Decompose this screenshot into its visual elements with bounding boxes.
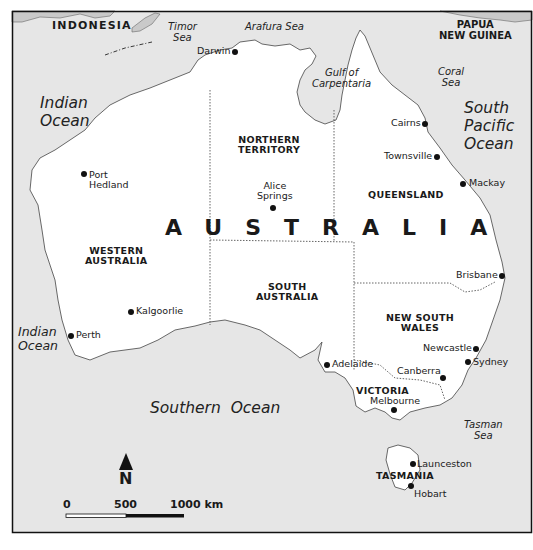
- tasman-line2: Sea: [464, 431, 503, 442]
- label-southern-ocean: Southern Ocean: [150, 400, 280, 418]
- city-label-sydney: Sydney: [473, 357, 508, 367]
- city-label-alice-springs: Alice Springs: [257, 181, 293, 201]
- timor-line1: Timor: [168, 22, 197, 33]
- carpentaria-line1: Gulf of: [312, 68, 371, 79]
- city-label-perth: Perth: [76, 330, 101, 340]
- label-south-pacific-ocean: South Pacific Ocean: [464, 100, 514, 153]
- city-dot-sydney: [465, 359, 471, 365]
- city-dot-canberra: [440, 375, 446, 381]
- city-label-hobart: Hobart: [414, 489, 446, 499]
- label-indian-ocean-south: Indian Ocean: [18, 325, 58, 354]
- coral-line2: Sea: [438, 78, 464, 89]
- label-new-south-wales: NEW SOUTH WALES: [386, 313, 454, 333]
- coral-line1: Coral: [438, 67, 464, 78]
- city-dot-townsville: [434, 154, 440, 160]
- sp-line2: Pacific: [464, 118, 514, 136]
- nt-line2: TERRITORY: [238, 145, 300, 155]
- city-dot-alice-springs: [270, 205, 276, 211]
- indian-s-line1: Indian: [18, 325, 58, 339]
- indian-s-line2: Ocean: [18, 339, 58, 353]
- sp-line1: South: [464, 100, 514, 118]
- city-label-mackay: Mackay: [469, 178, 505, 188]
- city-label-brisbane: Brisbane: [456, 270, 498, 280]
- scale-bar-white: [66, 514, 126, 518]
- sa-line2: AUSTRALIA: [256, 292, 318, 302]
- city-label-melbourne: Melbourne: [370, 396, 420, 406]
- scale-bar-black: [126, 514, 184, 518]
- label-indonesia: INDONESIA: [52, 20, 132, 32]
- nsw-line2: WALES: [386, 323, 454, 333]
- city-dot-kalgoorlie: [128, 309, 134, 315]
- city-dot-newcastle: [473, 346, 479, 352]
- city-dot-port-hedland: [81, 171, 87, 177]
- city-label-newcastle: Newcastle: [423, 343, 472, 353]
- city-label-port-hedland: Port Hedland: [89, 170, 129, 190]
- city-label-cairns: Cairns: [391, 118, 421, 128]
- city-dot-melbourne: [391, 407, 397, 413]
- label-queensland: QUEENSLAND: [368, 190, 444, 200]
- label-png-line1: PAPUA: [439, 20, 512, 31]
- city-label-canberra: Canberra: [397, 366, 441, 376]
- city-dot-launceston: [410, 461, 416, 467]
- label-western-australia: WESTERN AUSTRALIA: [85, 246, 147, 266]
- carpentaria-line2: Carpentaria: [312, 79, 371, 90]
- city-label-launceston: Launceston: [417, 459, 472, 469]
- city-dot-perth: [68, 333, 74, 339]
- timor-line2: Sea: [168, 33, 197, 44]
- label-tasmania: TASMANIA: [376, 471, 434, 481]
- label-png: PAPUA NEW GUINEA: [439, 20, 512, 41]
- city-dot-adelaide: [324, 362, 330, 368]
- label-australia: AUSTRALIA: [165, 216, 510, 239]
- label-png-line2: NEW GUINEA: [439, 31, 512, 42]
- label-timor-sea: Timor Sea: [168, 22, 197, 43]
- city-dot-brisbane: [499, 273, 505, 279]
- scale-label-1000km: 1000 km: [170, 499, 223, 511]
- label-tasman-sea: Tasman Sea: [464, 420, 503, 441]
- label-coral-sea: Coral Sea: [438, 67, 464, 88]
- tasman-line1: Tasman: [464, 420, 503, 431]
- port-hedland-line2: Hedland: [89, 180, 129, 190]
- city-dot-mackay: [460, 181, 466, 187]
- city-label-darwin: Darwin: [197, 46, 230, 56]
- sp-line3: Ocean: [464, 136, 514, 154]
- city-dot-cairns: [422, 121, 428, 127]
- indian-n-line1: Indian: [40, 95, 90, 113]
- city-label-townsville: Townsville: [384, 151, 432, 161]
- scale-label-500: 500: [114, 499, 137, 511]
- alice-line2: Springs: [257, 191, 293, 201]
- label-gulf-of-carpentaria: Gulf of Carpentaria: [312, 68, 371, 89]
- label-south-australia: SOUTH AUSTRALIA: [256, 282, 318, 302]
- city-label-adelaide: Adelaide: [332, 359, 373, 369]
- label-northern-territory: NORTHERN TERRITORY: [238, 135, 300, 155]
- city-label-kalgoorlie: Kalgoorlie: [136, 306, 183, 316]
- indian-n-line2: Ocean: [40, 113, 90, 131]
- wa-line2: AUSTRALIA: [85, 256, 147, 266]
- north-arrow-label: N: [119, 471, 132, 488]
- scale-label-0: 0: [63, 499, 71, 511]
- label-indian-ocean-north: Indian Ocean: [40, 95, 90, 131]
- city-dot-darwin: [232, 49, 238, 55]
- label-arafura-sea: Arafura Sea: [245, 22, 304, 33]
